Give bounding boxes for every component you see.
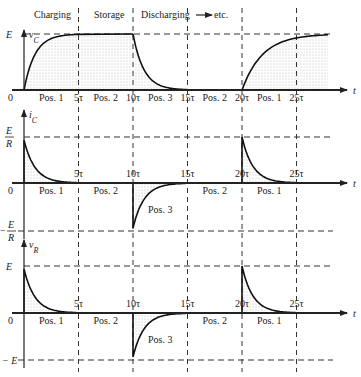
position-label: Pos. 2 xyxy=(94,185,118,196)
top-label: E xyxy=(5,29,12,40)
position-label: Pos. 2 xyxy=(94,92,118,103)
zero-label: 0 xyxy=(8,92,13,103)
position-label: Pos. 1 xyxy=(39,92,63,103)
position-label: Pos. 1 xyxy=(257,185,281,196)
rc-waveform-diagram: Charging Storage Discharging etc. tvC0E5… xyxy=(0,0,361,377)
tick-label-5tau: 5τ xyxy=(74,92,83,103)
bottom-label-den: R xyxy=(7,232,14,243)
tick-label-5tau: 5τ xyxy=(74,298,83,309)
tick-label-20tau: 20τ xyxy=(235,168,249,179)
tick-label-15tau: 15τ xyxy=(180,92,194,103)
position-label: Pos. 1 xyxy=(39,185,63,196)
recharge-shading xyxy=(242,35,328,90)
bottom-label: − E xyxy=(2,355,17,366)
position-label: Pos. 2 xyxy=(203,92,227,103)
position-label: Pos. 2 xyxy=(203,315,227,326)
position-label: Pos. 2 xyxy=(203,185,227,196)
graph-vR: tvR0E− E5τ10τ15τ20τ25τPos. 1Pos. 2Pos. 3… xyxy=(2,239,356,368)
y-axis-label: iC xyxy=(29,109,38,125)
top-label: E xyxy=(5,261,12,272)
tick-label-10tau: 10τ xyxy=(126,298,140,309)
bottom-label-num: E xyxy=(7,219,14,230)
position-label: Pos. 1 xyxy=(39,315,63,326)
top-label-num: E xyxy=(5,125,12,136)
charge-shading xyxy=(24,34,133,90)
graph-iC: tiC0ER−ER5τ10τ15τ20τ25τPos. 1Pos. 2Pos. … xyxy=(0,109,356,243)
phase-label-charging: Charging xyxy=(34,9,71,20)
tick-label-15tau: 15τ xyxy=(180,168,194,179)
t-axis-label: t xyxy=(353,178,356,189)
tick-label-25tau: 25τ xyxy=(289,92,303,103)
position-label: Pos. 1 xyxy=(257,315,281,326)
position-label: Pos. 3 xyxy=(148,334,172,345)
tick-label-20tau: 20τ xyxy=(235,92,249,103)
t-axis-label: t xyxy=(353,308,356,319)
graph-vC: tvC0E5τ10τ15τ20τ25τPos. 1Pos. 2Pos. 3Pos… xyxy=(5,29,356,103)
position-label: Pos. 3 xyxy=(148,92,172,103)
tick-label-15tau: 15τ xyxy=(180,298,194,309)
phase-label-storage: Storage xyxy=(94,9,125,20)
phase-label-etc: etc. xyxy=(214,9,228,20)
tick-label-5tau: 5τ xyxy=(74,168,83,179)
tick-label-25tau: 25τ xyxy=(289,168,303,179)
y-axis-label: vC xyxy=(29,29,39,45)
tick-label-10tau: 10τ xyxy=(126,92,140,103)
tick-label-25tau: 25τ xyxy=(289,298,303,309)
tick-label-20tau: 20τ xyxy=(235,298,249,309)
top-label-den: R xyxy=(5,138,12,149)
tick-label-10tau: 10τ xyxy=(126,168,140,179)
position-label: Pos. 3 xyxy=(148,204,172,215)
position-label: Pos. 2 xyxy=(94,315,118,326)
bottom-label-sign: − xyxy=(0,225,6,236)
phase-label-discharging: Discharging xyxy=(141,9,190,20)
zero-label: 0 xyxy=(8,315,13,326)
zero-label: 0 xyxy=(8,185,13,196)
t-axis-label: t xyxy=(353,85,356,96)
y-axis-label: vR xyxy=(29,239,38,255)
position-label: Pos. 1 xyxy=(257,92,281,103)
